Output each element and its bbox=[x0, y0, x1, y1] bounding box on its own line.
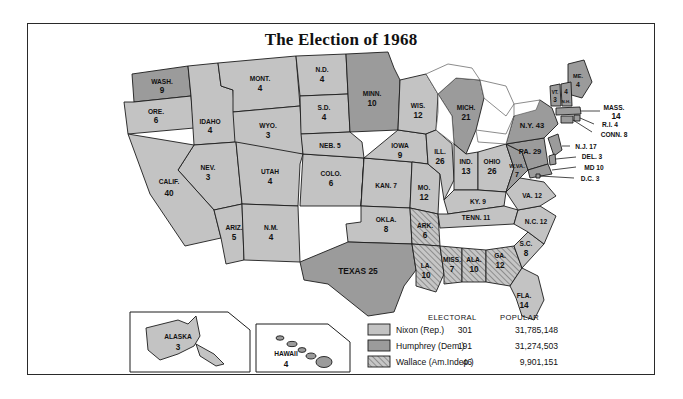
state-label-tenn: TENN. 11 bbox=[462, 214, 491, 221]
state-label-texas: TEXAS 25 bbox=[338, 266, 378, 276]
state-votes-vt: 3 bbox=[553, 96, 557, 103]
state-conn-shape[interactable] bbox=[561, 116, 573, 123]
inset-hawaii: HAWAII 4 bbox=[256, 324, 350, 372]
state-votes-sc: 8 bbox=[524, 249, 529, 258]
state-label-utah: UTAH bbox=[261, 168, 279, 175]
state-label-mo: MO. bbox=[418, 184, 431, 191]
leader-ri bbox=[580, 118, 594, 124]
state-votes-okla: 8 bbox=[384, 225, 389, 234]
state-votes-mont: 4 bbox=[258, 84, 263, 93]
state-label-dc: D.C. 3 bbox=[581, 175, 600, 182]
state-ore[interactable] bbox=[124, 96, 194, 134]
state-label-wash: WASH. bbox=[151, 78, 173, 85]
state-votes-wyo: 3 bbox=[266, 131, 271, 140]
legend-header-electoral: ELECTORAL bbox=[428, 313, 477, 322]
state-label-ind: IND. bbox=[459, 158, 472, 165]
state-votes-wash: 9 bbox=[160, 86, 165, 95]
state-label-nev: NEV. bbox=[201, 164, 216, 171]
state-label-nd: N.D. bbox=[315, 66, 328, 73]
legend-row-nixon[interactable]: Nixon (Rep.) 301 31,785,148 bbox=[368, 324, 558, 335]
state-label-nh: N.H. bbox=[562, 99, 571, 104]
state-label-sd: S.D. bbox=[318, 104, 331, 111]
state-votes-miss: 7 bbox=[450, 265, 455, 274]
legend: ELECTORAL POPULAR Nixon (Rep.) 301 31,78… bbox=[368, 313, 558, 367]
state-votes-ill: 26 bbox=[435, 157, 445, 166]
state-label-va: VA. 12 bbox=[522, 192, 542, 199]
state-label-wis: WIS. bbox=[411, 102, 425, 109]
state-votes-mass: 14 bbox=[611, 112, 621, 121]
state-votes-wva: 7 bbox=[515, 171, 519, 178]
state-label-vt: VT. bbox=[552, 90, 559, 95]
state-votes-iowa: 9 bbox=[398, 151, 403, 160]
inset-votes-hawaii: 4 bbox=[284, 360, 289, 369]
state-votes-ind: 13 bbox=[461, 167, 471, 176]
state-votes-ohio: 26 bbox=[487, 167, 497, 176]
legend-electoral-nixon: 301 bbox=[458, 325, 473, 335]
state-label-ny: N.Y. 43 bbox=[520, 121, 544, 130]
state-label-ga: GA. bbox=[494, 252, 506, 259]
state-label-mont: MONT. bbox=[250, 75, 271, 82]
legend-popular-wallace: 9,901,151 bbox=[520, 357, 558, 367]
state-label-nc: N.C. 12 bbox=[525, 218, 548, 225]
state-label-ala: ALA. bbox=[466, 256, 482, 263]
legend-row-humphrey[interactable]: Humphrey (Dem.) 191 31,274,503 bbox=[368, 340, 558, 351]
state-label-nm: N.M. bbox=[264, 224, 278, 231]
map-frame: The Election of 1968 WASH. 9 ORE. 6 IDAH… bbox=[27, 23, 655, 375]
inset-votes-alaska: 3 bbox=[176, 343, 181, 352]
state-label-nj: N.J. 17 bbox=[575, 143, 597, 150]
state-label-conn: CONN. 8 bbox=[601, 131, 628, 138]
state-votes-wis: 12 bbox=[413, 111, 423, 120]
state-votes-sd: 4 bbox=[322, 113, 327, 122]
state-label-calif: CALIF. bbox=[159, 178, 180, 185]
legend-header-popular: POPULAR bbox=[500, 313, 539, 322]
legend-candidate-nixon: Nixon (Rep.) bbox=[396, 325, 444, 335]
state-label-pa: PA. 29 bbox=[519, 147, 542, 156]
state-votes-ariz: 5 bbox=[232, 233, 237, 242]
state-votes-nd: 4 bbox=[320, 75, 325, 84]
state-dc-shape[interactable] bbox=[536, 174, 540, 178]
state-votes-nm: 4 bbox=[269, 233, 274, 242]
legend-swatch-humphrey bbox=[368, 340, 390, 351]
state-label-ark: ARK. bbox=[417, 222, 433, 229]
state-votes-utah: 4 bbox=[268, 177, 273, 186]
state-label-okla: OKLA. bbox=[376, 216, 397, 223]
election-map: WASH. 9 ORE. 6 IDAHO 4 MONT. 4 WYO. 3 NE… bbox=[28, 24, 656, 376]
state-mass-shape[interactable] bbox=[556, 107, 581, 115]
state-votes-mo: 12 bbox=[419, 193, 429, 202]
legend-electoral-wallace: 46 bbox=[462, 357, 472, 367]
state-votes-ga: 12 bbox=[495, 261, 505, 270]
inset-label-alaska: ALASKA bbox=[164, 333, 192, 340]
state-votes-me: 4 bbox=[576, 81, 580, 88]
state-votes-nev: 3 bbox=[206, 173, 211, 182]
state-label-ore: ORE. bbox=[148, 108, 164, 115]
legend-candidate-humphrey: Humphrey (Dem.) bbox=[396, 341, 464, 351]
state-votes-calif: 40 bbox=[164, 189, 174, 198]
state-label-ohio: OHIO bbox=[484, 158, 501, 165]
state-label-del: DEL. 3 bbox=[582, 153, 603, 160]
state-label-ill: ILL. bbox=[434, 148, 446, 155]
state-label-mass: MASS. bbox=[604, 104, 625, 111]
legend-row-wallace[interactable]: Wallace (Am.Indep.) 46 9,901,151 bbox=[368, 356, 558, 367]
leader-dc bbox=[540, 176, 574, 178]
legend-popular-nixon: 31,785,148 bbox=[515, 325, 558, 335]
state-label-wva: W.VA. bbox=[509, 163, 525, 169]
legend-electoral-humphrey: 191 bbox=[458, 341, 473, 351]
state-votes-nh: 4 bbox=[564, 88, 568, 95]
state-label-wyo: WYO. bbox=[259, 122, 277, 129]
state-label-kan: KAN. 7 bbox=[375, 182, 397, 189]
state-label-la: LA. bbox=[421, 262, 432, 269]
state-votes-mich: 21 bbox=[461, 113, 471, 122]
state-label-fla: FLA. bbox=[517, 292, 532, 299]
state-votes-ark: 6 bbox=[423, 231, 428, 240]
leader-md bbox=[552, 167, 576, 170]
state-label-ariz: ARIZ. bbox=[225, 224, 242, 231]
state-votes-ore: 6 bbox=[154, 116, 159, 125]
state-del-shape[interactable] bbox=[549, 154, 556, 165]
leader-del bbox=[556, 157, 576, 159]
state-label-ky: KY. 9 bbox=[470, 198, 486, 205]
state-ri-shape[interactable] bbox=[574, 115, 580, 121]
state-label-mich: MICH. bbox=[457, 104, 476, 111]
inset-label-hawaii: HAWAII bbox=[274, 350, 298, 357]
state-label-me: ME. bbox=[573, 73, 583, 79]
state-label-idaho: IDAHO bbox=[199, 118, 220, 125]
